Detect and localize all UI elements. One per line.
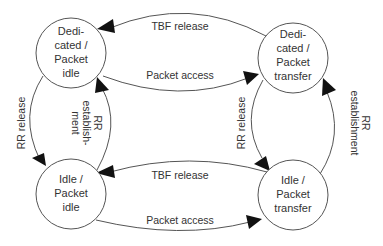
edge-rr-release-right: [251, 80, 263, 158]
edge-rr-establishment-right: [320, 92, 335, 174]
state-label: Packet: [276, 56, 310, 68]
arrowhead-icon: [97, 19, 115, 33]
edge-label-rr-establishment-right: RR establishment: [349, 91, 372, 156]
state-label: Dedi-: [280, 28, 307, 40]
edge-rr-release-left: [30, 76, 43, 160]
state-label: Idle /: [281, 174, 306, 186]
arrowhead-icon: [243, 71, 259, 85]
state-label: idle: [62, 67, 79, 79]
state-label: cated /: [276, 42, 310, 54]
arrowhead-icon: [32, 153, 46, 166]
svg-text:establishment: establishment: [349, 91, 361, 156]
edge-label-tbf-release-top: TBF release: [151, 20, 208, 32]
state-label: Packet: [54, 53, 88, 65]
svg-text:ment: ment: [70, 111, 82, 134]
state-label: Idle /: [59, 173, 84, 185]
edge-label-tbf-release-bottom: TBF release: [151, 169, 208, 181]
edge-label-rr-release-right: RR release: [235, 97, 247, 150]
state-dedicated-packet-transfer: Dedi- cated / Packet transfer: [258, 23, 328, 93]
state-idle-packet-idle: Idle / Packet idle: [36, 159, 106, 229]
state-label: Packet: [276, 188, 310, 200]
edge-label-rr-establishment-left: RR establish- ment: [70, 101, 104, 146]
state-label: idle: [62, 201, 79, 213]
state-label: transfer: [274, 202, 312, 214]
state-diagram: Dedi- cated / Packet idle Dedi- cated / …: [0, 0, 383, 246]
edge-label-packet-access-top: Packet access: [146, 69, 214, 81]
arrowhead-icon: [322, 78, 336, 96]
arrowhead-icon: [246, 215, 262, 229]
state-dedicated-packet-idle: Dedi- cated / Packet idle: [36, 18, 106, 88]
arrowhead-icon: [95, 77, 109, 93]
state-idle-packet-transfer: Idle / Packet transfer: [258, 160, 328, 230]
state-label: cated /: [54, 39, 88, 51]
edge-label-packet-access-bottom: Packet access: [146, 214, 214, 226]
edge-label-rr-release-left: RR release: [15, 97, 27, 150]
state-label: transfer: [274, 70, 312, 82]
state-label: Dedi-: [58, 25, 85, 37]
state-label: Packet: [54, 187, 88, 199]
